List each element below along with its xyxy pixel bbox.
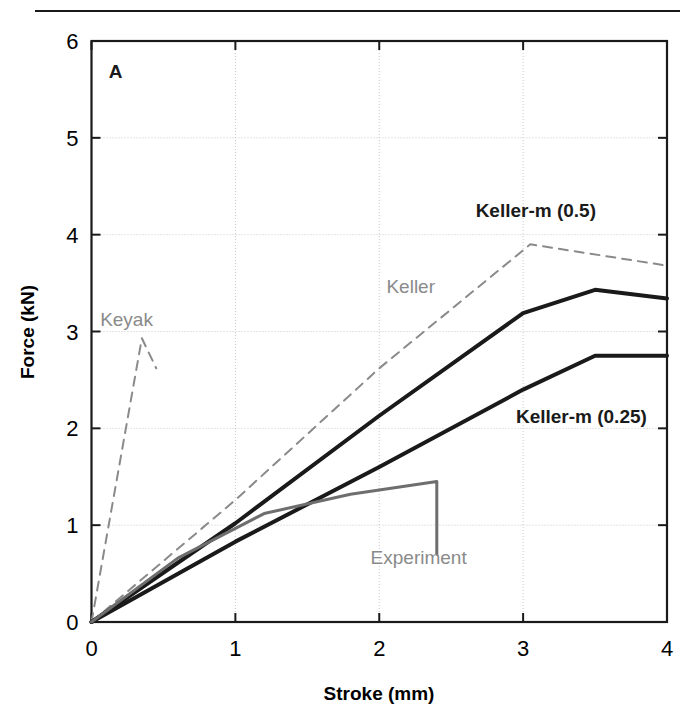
x-tick-label: 0 bbox=[85, 636, 97, 661]
figure-root: 012340123456 AKeyakKellerKeller-m (0.5)K… bbox=[0, 0, 694, 716]
y-axis-title: Force (kN) bbox=[17, 285, 38, 379]
y-tick-label: 1 bbox=[66, 513, 78, 538]
y-tick-label: 0 bbox=[66, 610, 78, 635]
annotation-label-keyak: Keyak bbox=[100, 309, 153, 330]
x-tick-label: 2 bbox=[373, 636, 385, 661]
gridlines-group bbox=[92, 41, 668, 622]
annotation-label-keller-m-0-5: Keller-m (0.5) bbox=[476, 200, 596, 221]
annotation-label-experiment: Experiment bbox=[371, 547, 468, 568]
y-tick-label: 2 bbox=[66, 416, 78, 441]
y-tick-label: 5 bbox=[66, 126, 78, 151]
y-tick-label: 6 bbox=[66, 29, 78, 54]
y-tick-label: 4 bbox=[66, 223, 78, 248]
x-tick-label: 3 bbox=[517, 636, 529, 661]
x-tick-label: 1 bbox=[229, 636, 241, 661]
x-tick-label: 4 bbox=[661, 636, 673, 661]
annotation-label-a: A bbox=[109, 61, 123, 82]
annotation-label-keller-m-0-25: Keller-m (0.25) bbox=[516, 406, 647, 427]
y-tick-label: 3 bbox=[66, 320, 78, 345]
annotation-label-keller: Keller bbox=[386, 276, 435, 297]
x-axis-title: Stroke (mm) bbox=[324, 683, 435, 704]
force-stroke-line-chart: 012340123456 AKeyakKellerKeller-m (0.5)K… bbox=[0, 0, 694, 716]
